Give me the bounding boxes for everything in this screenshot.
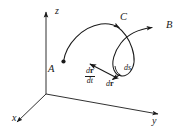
- velocity-vector-label: dr dt: [85, 67, 95, 86]
- space-curve-group: [64, 24, 153, 76]
- ds-arclength-label: ds: [124, 64, 131, 72]
- y-axis-line: [46, 94, 158, 114]
- curve-segment-loop: [113, 27, 152, 76]
- x-axis-line: [17, 94, 46, 122]
- point-a-marker: [61, 59, 65, 63]
- curve-c-label: C: [120, 12, 127, 23]
- velocity-denominator: dt: [85, 77, 95, 85]
- x-axis-label: x: [12, 113, 16, 123]
- y-axis-label: y: [152, 116, 156, 126]
- point-a-label: A: [48, 64, 54, 75]
- dr-vector-label: dr: [106, 80, 114, 88]
- figure-container: z x y A B C dr dt dr ds: [0, 0, 182, 137]
- z-axis-label: z: [55, 6, 59, 16]
- curve-segment-a-to-c: [64, 24, 120, 62]
- velocity-numerator: dr: [85, 67, 95, 75]
- point-b-label: B: [166, 20, 172, 31]
